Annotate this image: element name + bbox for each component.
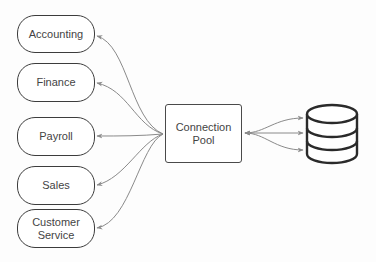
node-finance-label: Finance <box>36 76 75 89</box>
diagram-canvas: Accounting Finance Payroll Sales Custome… <box>0 0 376 262</box>
node-payroll-label: Payroll <box>39 130 73 143</box>
node-finance[interactable]: Finance <box>17 63 95 102</box>
edge-pool-finance <box>97 83 163 134</box>
node-customer-service[interactable]: Customer Service <box>17 209 95 248</box>
node-sales[interactable]: Sales <box>17 166 95 205</box>
edge-pool-sales <box>97 134 163 185</box>
node-connection-pool[interactable]: Connection Pool <box>165 104 242 163</box>
node-sales-label: Sales <box>42 179 70 192</box>
edge-pool-accounting <box>97 36 163 134</box>
edge-pool-payroll <box>97 134 163 136</box>
database-icon[interactable] <box>304 102 360 166</box>
edge-pool-database-1 <box>245 118 303 133</box>
edge-pool-database-3 <box>245 133 303 150</box>
node-accounting[interactable]: Accounting <box>17 15 95 53</box>
node-connection-pool-label: Connection Pool <box>174 121 234 147</box>
node-accounting-label: Accounting <box>29 28 83 41</box>
node-payroll[interactable]: Payroll <box>17 117 95 156</box>
node-customer-service-label: Customer Service <box>26 216 86 242</box>
